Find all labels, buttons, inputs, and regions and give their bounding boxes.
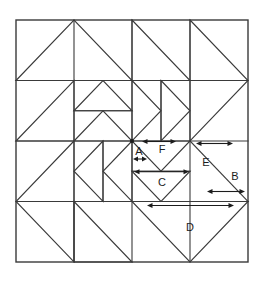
dimension-arrow-a xyxy=(133,157,147,162)
dimension-label-c: C xyxy=(158,176,166,188)
triangle-apex-up-small-tl xyxy=(74,111,132,141)
dimension-label-f: F xyxy=(159,143,166,155)
triangle-apex-right-small-tr xyxy=(132,81,161,142)
triangle-apex-right-medium-tr xyxy=(161,81,190,142)
triangle-tl-lower xyxy=(16,81,74,142)
triangle-apex-up-medium-tl xyxy=(74,81,132,111)
diagonal-split-eb xyxy=(190,141,248,202)
dimension-arrow-b xyxy=(207,189,245,194)
center-point-marker xyxy=(130,139,134,143)
triangle-apex-left-small-bl xyxy=(103,141,132,202)
dimension-label-d: D xyxy=(186,221,194,233)
dimension-label-b: B xyxy=(231,170,238,182)
triangle-tr-upper xyxy=(132,20,190,81)
dimension-label-a: A xyxy=(135,145,143,157)
triangle-apex-left-medium-bl xyxy=(74,141,103,202)
dimension-label-e: E xyxy=(202,156,209,168)
quilt-diagram-canvas: A F C E B D xyxy=(0,0,265,281)
quilt-figure: A F C E B D xyxy=(0,0,265,281)
dimension-arrow-e xyxy=(196,141,233,146)
triangle-bl-lower xyxy=(74,202,132,263)
